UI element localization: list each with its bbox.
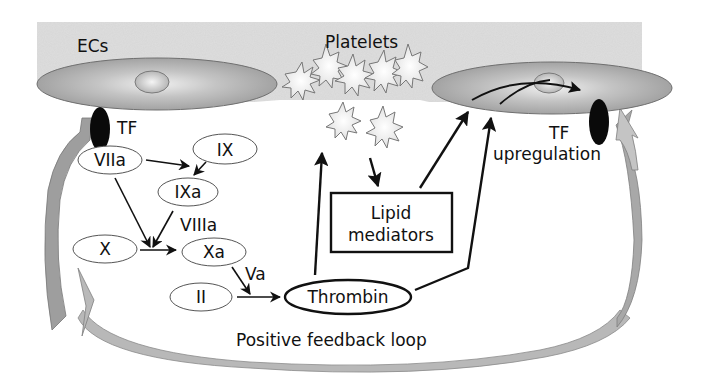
node-ii: II xyxy=(170,283,232,311)
coagulation-feedback-diagram: ECs Platelets TF TF upregulation VIIa IX… xyxy=(0,0,706,378)
tf-left-label: TF xyxy=(116,118,137,138)
tissue-factor-left xyxy=(90,107,110,151)
positive-feedback-loop-label: Positive feedback loop xyxy=(236,330,427,350)
ecs-label: ECs xyxy=(77,36,109,56)
arrow-viia-to-ix-conversion xyxy=(146,160,189,166)
svg-text:Xa: Xa xyxy=(203,242,225,262)
node-x: X xyxy=(73,235,137,263)
svg-text:mediators: mediators xyxy=(348,225,434,245)
platelets-label: Platelets xyxy=(325,32,398,52)
node-ixa: IXa xyxy=(158,178,218,206)
svg-text:IXa: IXa xyxy=(174,182,201,202)
svg-text:II: II xyxy=(196,287,206,307)
svg-text:VIIa: VIIa xyxy=(94,150,126,170)
platelet xyxy=(366,106,403,148)
arrow-lipid-to-cell xyxy=(420,112,468,188)
tissue-factor-right xyxy=(589,99,609,145)
node-thrombin: Thrombin xyxy=(285,280,411,314)
svg-text:IX: IX xyxy=(217,140,234,160)
svg-text:Thrombin: Thrombin xyxy=(306,287,388,307)
cofactor-viiia-label: VIIIa xyxy=(180,215,217,235)
nucleus-left xyxy=(135,71,169,93)
node-ix: IX xyxy=(193,134,257,164)
endothelial-cell-right xyxy=(432,62,672,114)
node-viia: VIIa xyxy=(78,146,142,174)
cofactor-va-label: Va xyxy=(245,264,266,284)
svg-text:X: X xyxy=(99,239,111,259)
svg-text:Lipid: Lipid xyxy=(371,203,412,223)
arrow-platelets-to-lipid-mediators xyxy=(370,158,378,186)
node-xa: Xa xyxy=(182,238,246,266)
arrow-ix-to-ixa xyxy=(194,162,206,175)
arrow-ixa-to-x-conversion xyxy=(153,211,173,247)
tf-upregulation-label: upregulation xyxy=(493,144,601,164)
arrow-thrombin-to-platelets xyxy=(315,153,322,275)
platelet xyxy=(326,102,361,140)
node-lipid-mediators: Lipid mediators xyxy=(331,193,452,252)
tf-right-label: TF xyxy=(548,123,569,143)
endothelial-cell-left xyxy=(37,58,277,110)
